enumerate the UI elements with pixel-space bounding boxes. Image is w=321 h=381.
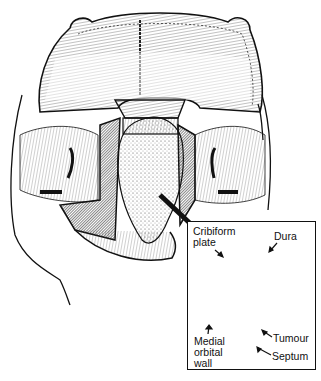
tumour-mass xyxy=(118,117,184,243)
label-septum: Septum xyxy=(272,351,308,362)
label-tumour: Tumour xyxy=(273,333,309,344)
label-plate: plate xyxy=(193,237,216,248)
right-orbit xyxy=(195,126,265,203)
label-dura: Dura xyxy=(274,231,297,242)
bone-flap xyxy=(39,13,262,112)
label-wall: wall xyxy=(194,358,212,369)
left-orbit xyxy=(20,126,98,202)
